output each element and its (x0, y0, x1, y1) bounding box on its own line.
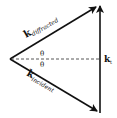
k-diffracted-label: k diffracted (22, 12, 60, 42)
k-incident-subscript: incident (31, 75, 56, 94)
k-incident-label: k incident (25, 67, 59, 94)
theta-lower: θ (40, 61, 44, 69)
k-incident-arrow (10, 59, 97, 111)
theta-upper: θ (40, 50, 44, 58)
vector-diagram: k diffracted k incident θ θ k t (0, 0, 117, 118)
k-diffracted-subscript: diffracted (30, 16, 60, 38)
k-t-subscript: t (110, 59, 112, 65)
k-t-label: k t (104, 54, 112, 65)
